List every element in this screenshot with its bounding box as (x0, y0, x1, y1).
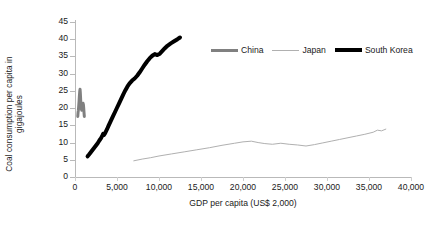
legend-label-south-korea: South Korea (365, 45, 413, 55)
x-tick-label: 25,000 (272, 183, 298, 192)
y-tick-label: 40 (46, 34, 68, 43)
legend-item-south-korea[interactable]: South Korea (335, 45, 413, 55)
y-tick-mark (70, 22, 75, 23)
y-tick-label: 0 (46, 172, 68, 181)
y-tick-label: 35 (46, 51, 68, 60)
x-tick-mark (117, 177, 118, 181)
series-line-south-korea (88, 38, 180, 157)
y-axis-line (75, 20, 76, 179)
y-tick-mark (70, 56, 75, 57)
x-tick-mark (75, 177, 76, 181)
legend-swatch-japan-icon (272, 50, 299, 51)
legend-label-japan: Japan (302, 45, 325, 55)
x-tick-mark (243, 177, 244, 181)
x-tick-label: 20,000 (230, 183, 256, 192)
y-tick-label: 25 (46, 86, 68, 95)
chart-container: Coal consumption per capita in gigajoule… (0, 0, 439, 228)
series-line-japan (134, 129, 386, 161)
legend-swatch-south-korea-icon (335, 48, 362, 52)
x-tick-mark (411, 177, 412, 181)
y-tick-label: 10 (46, 138, 68, 147)
legend-item-japan[interactable]: Japan (272, 45, 325, 55)
x-tick-label: 5,000 (106, 183, 128, 192)
x-tick-mark (369, 177, 370, 181)
y-tick-label: 45 (46, 17, 68, 26)
y-tick-label: 5 (46, 155, 68, 164)
series-line-china (78, 89, 85, 116)
x-tick-label: 35,000 (356, 183, 382, 192)
x-tick-mark (201, 177, 202, 181)
x-axis-title: GDP per capita (US$ 2,000) (75, 198, 411, 208)
x-tick-label: 0 (73, 183, 78, 192)
legend-swatch-china-icon (211, 49, 238, 52)
chart-legend: China Japan South Korea (211, 45, 422, 55)
x-tick-mark (285, 177, 286, 181)
y-axis-title-line-2: gigajoules (15, 39, 25, 189)
y-tick-label: 20 (46, 103, 68, 112)
y-tick-mark (70, 143, 75, 144)
y-axis-title-line-1: Coal consumption per capita in (5, 39, 15, 189)
y-tick-mark (70, 160, 75, 161)
y-tick-mark (70, 39, 75, 40)
x-tick-mark (327, 177, 328, 181)
y-tick-label: 15 (46, 120, 68, 129)
y-tick-mark (70, 91, 75, 92)
x-tick-label: 10,000 (146, 183, 172, 192)
legend-item-china[interactable]: China (211, 45, 263, 55)
y-tick-mark (70, 74, 75, 75)
x-tick-label: 15,000 (188, 183, 214, 192)
y-tick-mark (70, 125, 75, 126)
y-tick-mark (70, 108, 75, 109)
x-tick-mark (159, 177, 160, 181)
x-tick-label: 30,000 (314, 183, 340, 192)
y-tick-label: 30 (46, 69, 68, 78)
legend-label-china: China (241, 45, 263, 55)
x-tick-label: 40,000 (398, 183, 424, 192)
y-axis-title: Coal consumption per capita in gigajoule… (0, 0, 30, 228)
